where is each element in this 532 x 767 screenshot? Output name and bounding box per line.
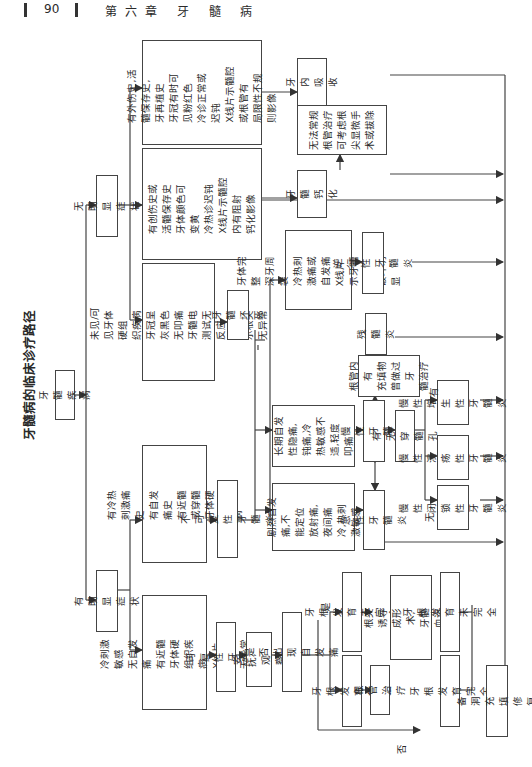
node-root-canal-therapy: 根管治疗 [370,665,390,715]
node-canal-filled: 根管内有 充填物 曾做过牙 髓治疗 [358,355,420,397]
node-acute-pulpitis: 急性牙髓炎 [363,490,385,550]
node-restoration: 备洞充填修复 [486,665,508,737]
node-root-incomplete-2: 牙根发育未完全 [440,572,460,652]
node-pulp-disease: 牙髓疾病 [55,370,75,420]
node-root-complete-2: 牙根发育完全 [440,655,460,727]
edge-label-has: 有 [426,387,440,397]
diagram-title: 牙髓病的临床诊疗路径 [20,300,40,450]
edge-label-no: 否 [394,744,408,754]
node-no-obvious-symptoms: 无明显症状 [96,175,118,237]
node-spontaneous-pain-question: 是否出现自发痛 [282,612,302,692]
node-pulp-necrosis: 牙髓坏死 [227,290,249,340]
node-resorption-symptoms: 有外伤史,活髓保存史, 牙再植史 牙冠有时可见粉红色 冷诊正常或迟钝 X线片示髓… [142,40,262,145]
node-irreversible-pulpitis: 不可复性牙髓炎 [217,480,238,558]
node-obvious-symptoms: 有明显症状 [96,570,118,632]
node-no-conventional-treatment: 无法常规 根管治疗 可考虑根 尖显微手 术或拔除 [297,105,387,155]
node-retrograde-pulpitis: 逆行性牙髓炎 [362,232,384,294]
node-chronic-hyperplastic-pulpitis: 慢性增生 性牙髓炎 [437,380,469,425]
node-calcification-symptoms: 有创伤史或活髓保存史 牙体颜色可变黄 冷热诊迟钝 X线片示髓腔内有阻射 钙化影像 [142,148,262,260]
node-pulp-calcification: 牙髓 钙化 [297,170,327,218]
node-retrograde-symptoms: 牙体完整 深牙周袋 冷热刺激痛或自发痛 X线片示牙槽骨吸收 破坏明显 [285,230,352,310]
node-chronic-closed-pulpitis: 慢性闭锁 性牙髓炎 [437,485,469,530]
node-internal-resorption: 牙内 吸收 [297,58,327,106]
node-necrosis-symptoms: 未见/可见牙体硬组 织疾病 牙冠呈灰黑色 无叩痛 牙髓电测试无反应 X线片示根尖… [142,263,215,381]
node-residual-pulpitis: 残髓炎 [365,313,387,355]
node-apexogenesis: 根尖诱导成形术, 牙髓血运重建 [390,575,432,660]
edge-label-yes: 是 [318,602,332,612]
node-chronic-symptoms: 长期自发性隐痛,钝痛,冷 热敏感不适,轻度叩痛 [272,405,355,467]
node-chronic-ulcerative-pulpitis: 慢性溃疡 性牙髓炎 [437,435,469,480]
edge-label-none: 无 [422,512,436,522]
node-soothe-observe: 安抚,观察 [246,632,272,687]
node-root-incomplete-1: 牙根发育未完全 [342,572,362,652]
node-irreversible-symptoms: 有冷热刺激痛史 有自发痛史 有近髓或穿髓牙体硬组织疾病 [142,445,207,563]
